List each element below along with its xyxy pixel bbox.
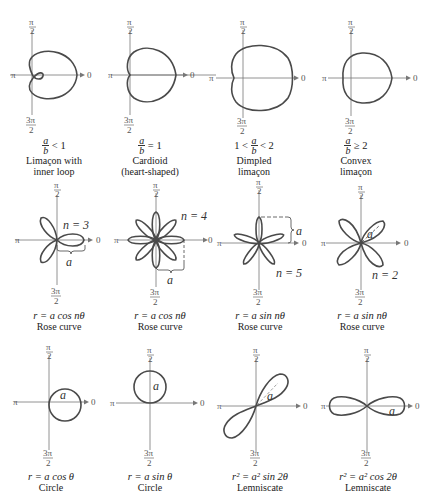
arrow-icon xyxy=(88,238,93,243)
label-pi: π xyxy=(114,235,119,245)
label-3pi-over-2: 3π xyxy=(144,448,154,458)
curve-name: Circle xyxy=(96,482,204,493)
caption-circle-sin: r = a sin θ Circle xyxy=(96,471,204,493)
arrow-icon xyxy=(396,241,401,246)
a-label: a xyxy=(167,273,173,287)
label-3pi-over-2-den: 2 xyxy=(256,297,261,305)
label-3pi-over-2-den: 2 xyxy=(29,125,34,135)
panel-circle-sin: a π 2 π 0 3π 2 r = a sin θ Circle xyxy=(108,340,216,495)
arrow-icon xyxy=(84,400,89,405)
arrow-icon xyxy=(80,73,85,78)
label-pi-over-2-den: 2 xyxy=(47,351,52,361)
label-zero: 0 xyxy=(96,235,101,245)
equation: r = a sin θ xyxy=(96,471,204,482)
label-3pi-over-2-den: 2 xyxy=(240,126,245,135)
equation: r = a sin nθ xyxy=(206,310,314,321)
panel-rose-sin-n2: a n = 2 π 2 π 0 3π 2 r = a sin nθ Rose c… xyxy=(318,175,426,330)
label-pi-over-2-den: 2 xyxy=(148,354,153,364)
a-label: a xyxy=(267,389,273,403)
panel-lemniscate-cos: a π 2 π 0 3π 2 r² = a² cos 2θ Lemniscate xyxy=(318,340,426,495)
a-brace xyxy=(288,217,294,243)
polar-graph-convex-limacon: π 2 π 0 3π 2 xyxy=(318,0,434,135)
polar-graph-circle-cos: a π 2 π 0 3π 2 xyxy=(0,340,108,470)
a-label: a xyxy=(389,404,395,418)
n-label: n = 3 xyxy=(63,218,89,232)
panel-circle-cos: a π 2 π 0 3π 2 r = a cos θ Circle xyxy=(0,340,108,495)
a-label: a xyxy=(153,379,159,393)
label-3pi-over-2: 3π xyxy=(355,287,365,297)
label-zero: 0 xyxy=(87,70,92,80)
label-zero: 0 xyxy=(413,73,418,83)
label-pi: π xyxy=(110,398,115,408)
label-3pi-over-2-den: 2 xyxy=(54,296,59,305)
n-label: n = 5 xyxy=(276,266,302,280)
label-zero: 0 xyxy=(415,401,420,411)
panel-rose-cos-n4: a n = 4 π 2 π 0 3π 2 r = a cos nθ Rose c… xyxy=(108,175,216,330)
curve-name: Lemniscate xyxy=(314,482,422,493)
label-3pi-over-2: 3π xyxy=(124,115,134,125)
label-3pi-over-2: 3π xyxy=(361,448,371,458)
polar-graph-lemniscate-sin: a π 2 π 0 3π 2 xyxy=(216,340,324,470)
rose-petal xyxy=(40,240,57,262)
caption-dimpled-limacon: 1 < ab < 2 Dimpled limaçon xyxy=(200,136,308,177)
polar-graph-cardioid: π 2 π 0 3π 2 xyxy=(108,0,216,135)
label-zero: 0 xyxy=(190,70,195,80)
label-3pi-over-2: 3π xyxy=(237,116,247,126)
label-pi: π xyxy=(217,238,222,248)
caption-rose-cos-n3: r = a cos nθ Rose curve xyxy=(5,310,113,332)
condition: 1 < ab < 2 xyxy=(200,136,308,155)
label-pi: π xyxy=(11,70,16,80)
polar-graph-rose-cos-n3: a n = 3 π 2 π 0 3π 2 xyxy=(0,175,108,305)
a-label: a xyxy=(60,388,66,402)
rose-petal xyxy=(40,218,57,240)
a-brace xyxy=(156,260,184,273)
label-pi: π xyxy=(321,401,326,411)
label-zero: 0 xyxy=(303,401,308,411)
label-3pi-over-2: 3π xyxy=(51,286,61,296)
label-zero: 0 xyxy=(302,238,307,248)
caption-rose-sin-n5: r = a sin nθ Rose curve xyxy=(206,310,314,332)
arrow-icon xyxy=(193,401,198,406)
label-zero: 0 xyxy=(91,397,96,407)
curve-name: Rose curve xyxy=(206,321,314,332)
label-pi: π xyxy=(15,235,20,245)
curve-name: Limaçon with xyxy=(0,155,108,166)
caption-lemniscate-sin: r² = a² sin 2θ Lemniscate xyxy=(206,471,314,493)
polar-graph-circle-sin: a π 2 π 0 3π 2 xyxy=(108,340,216,470)
curve-name: Lemniscate xyxy=(206,482,314,493)
label-3pi-over-2: 3π xyxy=(345,116,355,126)
label-3pi-over-2-den: 2 xyxy=(348,126,353,135)
label-pi-over-2-den: 2 xyxy=(30,26,35,36)
curve-name: Convex xyxy=(302,155,410,166)
caption-rose-cos-n4: r = a cos nθ Rose curve xyxy=(106,310,214,332)
n-label: n = 2 xyxy=(372,268,398,282)
label-3pi-over-2: 3π xyxy=(26,115,36,125)
panel-lemniscate-sin: a π 2 π 0 3π 2 r² = a² sin 2θ Lemniscate xyxy=(216,340,324,495)
caption-lemniscate-cos: r² = a² cos 2θ Lemniscate xyxy=(314,471,422,493)
label-pi-over-2-den: 2 xyxy=(257,186,262,196)
panel-rose-sin-n5: a n = 5 π 2 π 0 3π 2 r = a sin nθ Rose c… xyxy=(216,175,324,330)
a-label: a xyxy=(367,227,373,241)
label-pi: π xyxy=(209,73,214,83)
label-pi-over-2-den: 2 xyxy=(55,189,60,199)
n-label: n = 4 xyxy=(181,209,207,223)
curve-name: Circle xyxy=(0,482,105,493)
arrow-icon xyxy=(294,76,299,81)
label-pi-over-2-den: 2 xyxy=(359,191,364,201)
label-pi-over-2-den: 2 xyxy=(128,26,133,36)
polar-graph-limacon-inner-loop: π 2 π 0 3π 2 xyxy=(0,0,108,135)
condition: ab < 1 xyxy=(0,136,108,155)
caption-limacon-inner-loop: ab < 1 Limaçon with inner loop xyxy=(0,136,108,177)
panel-dimpled-limacon: π 2 π 0 3π 2 1 < ab < 2 Dimpled limaçon xyxy=(206,0,314,165)
curve-name: Rose curve xyxy=(5,321,113,332)
caption-rose-sin-n2: r = a sin nθ Rose curve xyxy=(308,310,416,332)
label-3pi-over-2-den: 2 xyxy=(364,458,369,468)
label-zero: 0 xyxy=(200,398,205,408)
label-3pi-over-2: 3π xyxy=(150,287,160,297)
equation: r² = a² sin 2θ xyxy=(206,471,314,482)
label-3pi-over-2: 3π xyxy=(253,287,263,297)
label-3pi-over-2: 3π xyxy=(43,448,53,458)
polar-graph-dimpled-limacon: π 2 π 0 3π 2 xyxy=(206,0,314,135)
label-3pi-over-2-den: 2 xyxy=(358,297,363,305)
arrow-icon xyxy=(296,404,301,409)
